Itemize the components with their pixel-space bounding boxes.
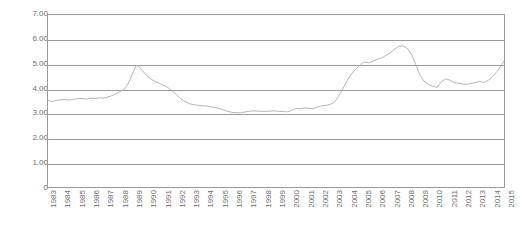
- x-tick-label: 2014: [494, 190, 502, 236]
- x-tick-label: 2001: [308, 190, 316, 236]
- x-tick-label: 1986: [93, 190, 101, 236]
- y-tick-label: 7.00: [8, 10, 48, 18]
- x-tick-label: 2007: [394, 190, 402, 236]
- x-tick-label: 2013: [479, 190, 487, 236]
- x-tick-label: 2009: [422, 190, 430, 236]
- x-tick-label: 2003: [336, 190, 344, 236]
- y-tick-label: 4.00: [8, 85, 48, 93]
- x-tick-label: 1996: [236, 190, 244, 236]
- x-tick-label: 2000: [293, 190, 301, 236]
- x-tick-label: 1995: [222, 190, 230, 236]
- series-polyline: [48, 46, 504, 113]
- x-tick-label: 2011: [451, 190, 459, 236]
- x-tick-label: 1984: [64, 190, 72, 236]
- x-tick-label: 1998: [265, 190, 273, 236]
- x-tick-label: 2010: [436, 190, 444, 236]
- x-tick-label: 1985: [79, 190, 87, 236]
- x-tick-label: 2008: [408, 190, 416, 236]
- x-tick-label: 1990: [150, 190, 158, 236]
- plot-area: [47, 14, 505, 188]
- x-tick-label: 1992: [179, 190, 187, 236]
- x-tick-label: 1988: [122, 190, 130, 236]
- x-tick-label: 1993: [193, 190, 201, 236]
- y-tick-label: 5.00: [8, 60, 48, 68]
- x-tick-label: 2015: [508, 190, 516, 236]
- x-tick-label: 2006: [379, 190, 387, 236]
- y-tick-label: 2.00: [8, 134, 48, 142]
- x-tick-label: 1987: [107, 190, 115, 236]
- y-tick-label: 6.00: [8, 35, 48, 43]
- x-tick-label: 1989: [136, 190, 144, 236]
- y-tick-label: 0: [8, 184, 48, 192]
- y-tick-label: 1.00: [8, 159, 48, 167]
- y-tick-label: 3.00: [8, 109, 48, 117]
- x-tick-label: 1983: [50, 190, 58, 236]
- x-tick-label: 2002: [322, 190, 330, 236]
- x-tick-label: 1991: [165, 190, 173, 236]
- x-tick-label: 1997: [250, 190, 258, 236]
- x-tick-label: 1994: [207, 190, 215, 236]
- line-chart: 7.006.005.004.003.002.001.000 1983198419…: [0, 0, 524, 240]
- x-tick-label: 1999: [279, 190, 287, 236]
- series-line: [48, 15, 504, 187]
- x-axis: 1983198419851986198719881989199019911992…: [47, 190, 505, 240]
- x-tick-label: 2012: [465, 190, 473, 236]
- x-tick-label: 2004: [351, 190, 359, 236]
- x-tick-label: 2005: [365, 190, 373, 236]
